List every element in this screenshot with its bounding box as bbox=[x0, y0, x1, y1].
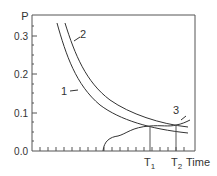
curve-3 bbox=[103, 120, 190, 151]
chart: P 0.3 0.2 0.1 0.0 2 1 3 T1 T2 Time bbox=[0, 0, 217, 176]
t2-label: T2 bbox=[171, 156, 183, 171]
y-tick-label-0.0: 0.0 bbox=[14, 146, 28, 157]
curve-2-label: 2 bbox=[80, 28, 86, 40]
x-ticks bbox=[40, 147, 184, 151]
y-axis-label: P bbox=[21, 10, 28, 22]
x-axis-label: Time bbox=[186, 156, 210, 168]
y-tick-label-0.3: 0.3 bbox=[14, 31, 28, 42]
curve-3-leader bbox=[181, 116, 186, 120]
y-tick-label-0.2: 0.2 bbox=[14, 69, 28, 80]
y-tick-label-0.1: 0.1 bbox=[14, 108, 28, 119]
curve-1-label: 1 bbox=[61, 85, 67, 97]
t1-label: T1 bbox=[144, 156, 156, 171]
curve-3-label: 3 bbox=[173, 104, 179, 116]
curve-1-leader bbox=[70, 90, 78, 91]
y-ticks bbox=[32, 26, 37, 141]
